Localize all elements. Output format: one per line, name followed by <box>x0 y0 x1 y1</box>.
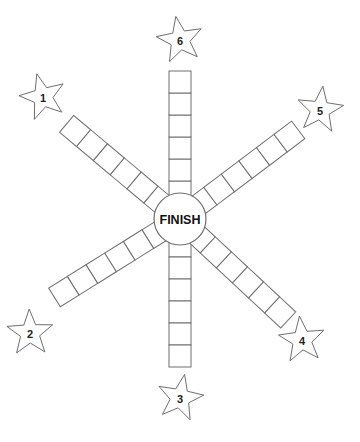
star-number: 5 <box>317 105 323 117</box>
track-square[interactable] <box>169 323 191 345</box>
game-board: 123456 FINISH <box>0 0 360 442</box>
star-number: 1 <box>40 92 46 104</box>
track-square[interactable] <box>169 279 191 301</box>
finish-label: FINISH <box>160 213 201 227</box>
star-number: 6 <box>177 35 183 47</box>
star-number: 2 <box>27 328 33 340</box>
start-star-1[interactable]: 1 <box>19 74 63 120</box>
track-square[interactable] <box>169 137 191 159</box>
track-square[interactable] <box>169 71 191 93</box>
track-5 <box>186 121 305 218</box>
track-square[interactable] <box>169 345 191 367</box>
track-2 <box>49 218 173 307</box>
track-square[interactable] <box>169 93 191 115</box>
start-star-3[interactable]: 3 <box>159 374 204 419</box>
track-square[interactable] <box>169 115 191 137</box>
star-number: 4 <box>299 335 306 347</box>
track-4 <box>184 222 296 328</box>
track-6 <box>169 71 191 203</box>
track-1 <box>60 115 175 217</box>
track-3 <box>169 235 191 367</box>
track-square[interactable] <box>169 159 191 181</box>
star-number: 3 <box>177 393 183 405</box>
track-square[interactable] <box>169 257 191 279</box>
start-star-2[interactable]: 2 <box>7 309 53 353</box>
cropped-caption <box>10 438 110 442</box>
start-star-6[interactable]: 6 <box>156 16 201 61</box>
start-star-5[interactable]: 5 <box>298 86 343 131</box>
track-square[interactable] <box>169 301 191 323</box>
finish-space[interactable]: FINISH <box>154 193 206 245</box>
